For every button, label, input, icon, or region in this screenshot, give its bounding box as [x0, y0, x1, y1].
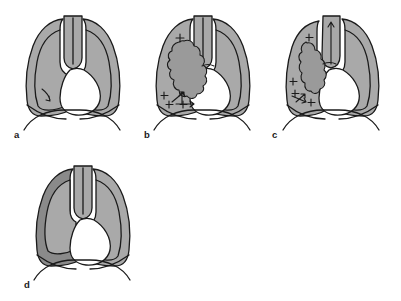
panel-b: b — [138, 6, 268, 136]
lung-diagram-figure: a — [0, 0, 401, 301]
panel-d-drawing — [18, 156, 148, 286]
panel-a-drawing — [8, 6, 138, 136]
panel-label-d: d — [24, 280, 30, 290]
panel-d: d — [18, 156, 148, 286]
panel-c: c — [266, 6, 396, 136]
panel-c-drawing — [266, 6, 396, 136]
panel-label-c: c — [272, 130, 277, 140]
panel-label-a: a — [14, 130, 19, 140]
panel-b-drawing — [138, 6, 268, 136]
panel-a: a — [8, 6, 138, 136]
panel-label-b: b — [144, 130, 150, 140]
